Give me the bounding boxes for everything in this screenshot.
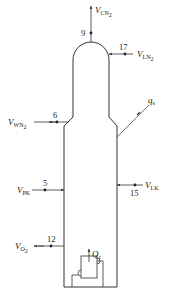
stream-vpk-label: VPK [17, 185, 31, 196]
stream-oxygen-product: 12 VO2 [15, 234, 64, 254]
stream-vln2-label: VLN2 [137, 49, 154, 62]
node-17-label: 17 [119, 42, 128, 52]
node-15-label: 15 [130, 188, 139, 198]
stream-liquid-air: 15 VLK [117, 180, 159, 198]
reboiler-duty-label: Qc [92, 249, 102, 260]
heat-leak: qs [117, 95, 156, 137]
node-5-label: 5 [43, 178, 47, 188]
stream-liquid-nitrogen: 17 VLN2 [109, 42, 154, 62]
node-6-label: 6 [53, 110, 57, 120]
distillation-column-diagram: 9 VCN2 17 VLN2 6 VWN2 qs 5 VPK 15 VLK [0, 0, 172, 306]
heat-leak-label: qs [148, 95, 156, 106]
stream-expanded-air: 5 VPK [17, 178, 64, 196]
stream-vlk-label: VLK [145, 180, 159, 191]
stream-vo2-label: VO2 [15, 241, 28, 254]
stream-waste-nitrogen: 6 VWN2 [8, 110, 69, 130]
column-shell [64, 42, 117, 287]
node-9-label: 9 [81, 28, 85, 38]
stream-vcn2-label: VCN2 [95, 5, 112, 18]
stream-vwn2-label: VWN2 [8, 117, 27, 130]
stream-top-product: 9 VCN2 [81, 5, 112, 42]
node-12-label: 12 [47, 234, 56, 244]
